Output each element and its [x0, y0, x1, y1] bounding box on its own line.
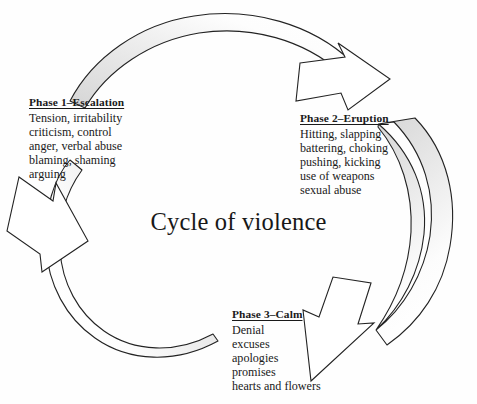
phase-2-line: use of weapons — [300, 169, 395, 183]
phase-3-line: excuses — [232, 337, 321, 351]
phase-3-lines: Denial excuses apologies promises hearts… — [232, 323, 321, 393]
phase-2-block: Phase 2–Eruption Hitting, slapping batte… — [300, 108, 395, 197]
phase-1-line: arguing — [29, 167, 130, 181]
phase-2-line: Hitting, slapping — [300, 127, 395, 141]
phase-1-line: criticism, control — [29, 125, 130, 139]
phase-3-line: Denial — [232, 323, 321, 337]
phase-3-line: apologies — [232, 351, 321, 365]
phase-3-line: hearts and flowers — [232, 379, 321, 393]
phase-3-block: Phase 3–Calm Denial excuses apologies pr… — [232, 304, 321, 393]
phase-2-line: sexual abuse — [300, 183, 395, 197]
phase-1-lines: Tension, irritability criticism, control… — [29, 111, 130, 181]
phase-2-lines: Hitting, slapping battering, choking pus… — [300, 127, 395, 197]
phase-1-line: Tension, irritability — [29, 111, 130, 125]
calm-to-escalation-arrow — [7, 160, 218, 357]
phase-3-title: Phase 3–Calm — [232, 308, 309, 321]
phase-1-line: anger, verbal abuse — [29, 139, 130, 153]
phase-2-title: Phase 2–Eruption — [300, 112, 395, 125]
diagram-title: Cycle of violence — [0, 208, 477, 236]
phase-3-line: promises — [232, 365, 321, 379]
phase-1-line: blaming, shaming — [29, 153, 130, 167]
cycle-of-violence-diagram: Phase 1–Escalation Tension, irritability… — [0, 0, 477, 404]
phase-2-line: pushing, kicking — [300, 155, 395, 169]
phase-1-block: Phase 1–Escalation Tension, irritability… — [29, 92, 130, 181]
phase-2-line: battering, choking — [300, 141, 395, 155]
phase-1-title: Phase 1–Escalation — [29, 96, 130, 109]
